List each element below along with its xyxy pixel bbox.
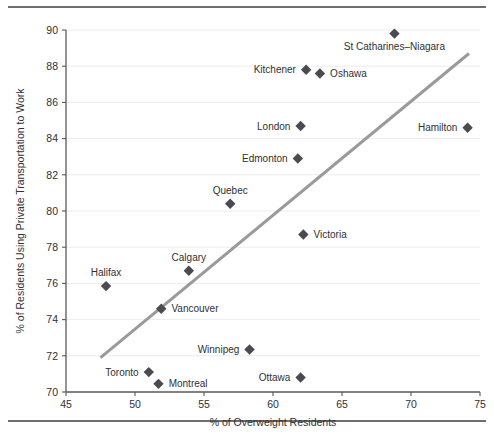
y-tick-label: 78 <box>46 241 58 253</box>
figure-container: 7072747678808284868890 45505560657075 St… <box>0 0 494 446</box>
data-point-marker[interactable] <box>101 281 111 291</box>
y-tick-label: 70 <box>46 386 58 398</box>
data-point-label: Halifax <box>91 267 122 278</box>
scatter-plot: 7072747678808284868890 45505560657075 St… <box>0 0 494 446</box>
x-tick-label: 75 <box>474 398 486 410</box>
figure-caption <box>8 428 486 442</box>
y-tick-label: 88 <box>46 60 58 72</box>
data-point-label: Vancouver <box>171 303 219 314</box>
y-tick-label: 86 <box>46 96 58 108</box>
data-point-label: St Catharines–Niagara <box>344 41 446 52</box>
x-axis-title: % of Overweight Residents <box>210 416 337 428</box>
x-tick-label: 70 <box>405 398 417 410</box>
data-point-marker[interactable] <box>462 123 472 133</box>
data-point-label: Kitchener <box>254 64 297 75</box>
y-tick-label: 76 <box>46 277 58 289</box>
x-tick-label: 50 <box>129 398 141 410</box>
data-point-label: Hamilton <box>418 122 457 133</box>
data-point-marker[interactable] <box>298 229 308 239</box>
y-tick-label: 72 <box>46 350 58 362</box>
y-axis: 7072747678808284868890 <box>46 24 66 398</box>
data-point-marker[interactable] <box>153 379 163 389</box>
x-axis: 45505560657075 <box>60 392 486 410</box>
y-tick-label: 90 <box>46 24 58 36</box>
x-tick-label: 60 <box>267 398 279 410</box>
data-point-marker[interactable] <box>244 344 254 354</box>
y-tick-label: 80 <box>46 205 58 217</box>
y-tick-label: 84 <box>46 132 58 144</box>
data-point-marker[interactable] <box>184 266 194 276</box>
data-point-label: Edmonton <box>242 153 288 164</box>
data-point-label: London <box>257 121 290 132</box>
data-point-marker[interactable] <box>225 199 235 209</box>
data-point-label: Victoria <box>314 229 348 240</box>
gridlines <box>66 30 480 356</box>
data-point-marker[interactable] <box>295 372 305 382</box>
trend-line <box>101 54 469 358</box>
x-tick-label: 55 <box>198 398 210 410</box>
chart-svg: 7072747678808284868890 45505560657075 St… <box>0 0 494 446</box>
data-points <box>101 28 473 389</box>
data-point-label: Calgary <box>172 252 206 263</box>
data-point-label: Winnipeg <box>198 344 240 355</box>
data-point-marker[interactable] <box>295 121 305 131</box>
data-point-label: Montreal <box>169 378 208 389</box>
y-axis-title: % of Residents Using Private Transportat… <box>14 88 26 334</box>
data-point-label: Quebec <box>213 185 248 196</box>
data-point-marker[interactable] <box>293 153 303 163</box>
data-point-marker[interactable] <box>315 68 325 78</box>
y-tick-label: 82 <box>46 169 58 181</box>
y-tick-label: 74 <box>46 313 58 325</box>
trendline <box>101 54 469 358</box>
data-point-label: Ottawa <box>259 372 291 383</box>
x-tick-label: 45 <box>60 398 72 410</box>
data-point-label: Toronto <box>105 367 139 378</box>
data-point-label: Oshawa <box>330 68 367 79</box>
data-point-marker[interactable] <box>144 367 154 377</box>
x-tick-label: 65 <box>336 398 348 410</box>
